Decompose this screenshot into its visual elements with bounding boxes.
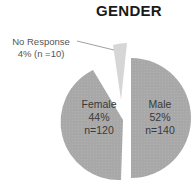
no-response-slice bbox=[113, 43, 127, 100]
female-label: Female 44% n=120 bbox=[76, 98, 122, 137]
male-pct: 52% bbox=[138, 111, 182, 124]
male-name: Male bbox=[138, 98, 182, 111]
leader-line bbox=[77, 41, 114, 50]
no-response-label: No Response 4% (n =10) bbox=[6, 36, 76, 60]
female-pct: 44% bbox=[76, 111, 122, 124]
male-label: Male 52% n=140 bbox=[138, 98, 182, 137]
male-n: n=140 bbox=[138, 124, 182, 137]
female-n: n=120 bbox=[76, 124, 122, 137]
no-response-detail: 4% (n =10) bbox=[6, 48, 76, 60]
pie-chart bbox=[0, 0, 195, 191]
no-response-name: No Response bbox=[6, 36, 76, 48]
female-name: Female bbox=[76, 98, 122, 111]
